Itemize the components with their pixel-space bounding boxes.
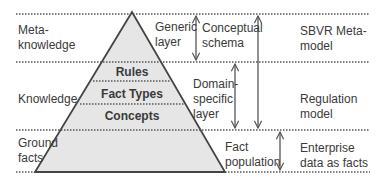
generic-layer-label: Generic layer [155,20,197,50]
pyramid-layer-fact-types: Fact Types [92,87,172,102]
domain-specific-layer-label: Domain- specific layer [193,77,238,122]
row-label-meta-knowledge: Meta- knowledge [18,23,75,53]
row-label-sbvr-metamodel: SBVR Meta- model [300,24,367,54]
conceptual-schema-label: Conceptual schema [202,21,263,51]
row-label-knowledge: Knowledge [18,92,77,107]
row-label-enterprise-data: Enterprise data as facts [300,141,368,171]
pyramid-layer-rules: Rules [102,65,162,80]
fact-population-label: Fact population [225,140,280,170]
row-label-regulation-model: Regulation model [300,92,357,122]
pyramid-layer-concepts: Concepts [92,109,172,124]
row-label-ground-facts: Ground facts [18,136,58,166]
